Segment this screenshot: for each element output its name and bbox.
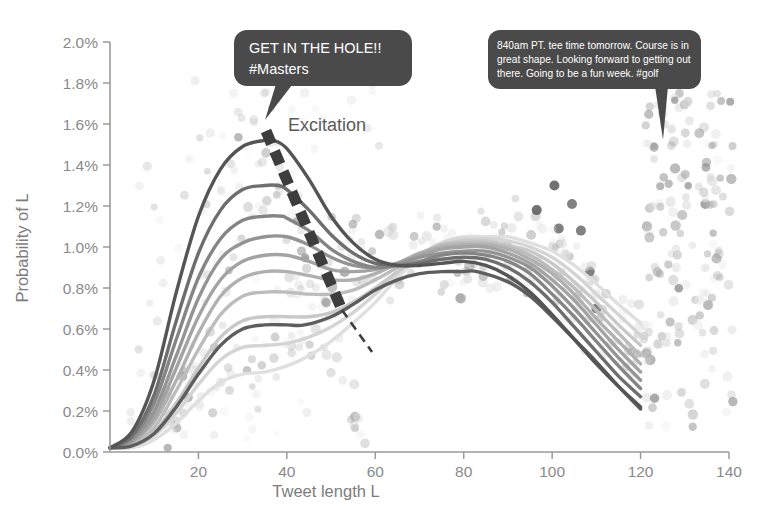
scatter-point: [409, 240, 418, 249]
scatter-point: [294, 281, 303, 290]
scatter-point: [650, 155, 658, 163]
scatter-point: [368, 247, 376, 255]
scatter-point: [306, 279, 315, 288]
scatter-point: [185, 155, 193, 163]
scatter-point: [253, 275, 261, 283]
scatter-point: [549, 225, 557, 233]
scatter-point: [174, 244, 184, 254]
scatter-point: [289, 351, 298, 360]
scatter-point: [210, 431, 218, 439]
scatter-point: [677, 330, 685, 338]
scatter-point: [230, 253, 238, 261]
x-tick-label: 100: [539, 463, 565, 480]
scatter-point: [711, 129, 721, 139]
scatter-point: [710, 230, 717, 237]
scatter-point: [716, 273, 724, 281]
scatter-point: [718, 260, 727, 269]
scatter-point: [728, 397, 737, 406]
scatter-point: [360, 439, 370, 449]
scatter-point: [688, 409, 698, 419]
scatter-point: [410, 232, 419, 241]
scatter-point: [713, 155, 723, 165]
scatter-point: [667, 125, 676, 134]
scatter-point: [644, 351, 653, 360]
scatter-point: [642, 121, 650, 129]
x-tick-label: 140: [716, 463, 742, 480]
scatter-point: [204, 168, 211, 175]
y-tick-label: 2.0%: [63, 34, 99, 51]
scatter-point: [383, 227, 393, 237]
scatter-point: [709, 240, 717, 248]
y-tick-label: 1.4%: [63, 157, 99, 174]
tweet-bubble-masters-line1: GET IN THE HOLE!!: [249, 40, 381, 56]
y-tick-label: 1.2%: [63, 198, 99, 215]
scatter-point: [512, 195, 520, 203]
scatter-point: [723, 372, 733, 382]
scatter-point: [321, 297, 330, 306]
scatter-point: [709, 347, 717, 355]
scatter-point: [669, 137, 679, 147]
scatter-point: [514, 212, 524, 222]
scatter-point: [312, 105, 320, 113]
scatter-point: [677, 173, 687, 183]
scatter-point: [297, 398, 305, 406]
scatter-point: [310, 145, 318, 153]
scatter-point: [338, 376, 347, 385]
scatter-point: [146, 300, 153, 307]
scatter-point: [136, 369, 145, 378]
scatter-point: [685, 182, 692, 189]
x-tick-label: 80: [455, 463, 473, 480]
scatter-point: [249, 383, 256, 390]
scatter-point: [347, 95, 357, 105]
scatter-point: [440, 280, 449, 289]
scatter-point: [668, 275, 678, 285]
scatter-point: [643, 139, 651, 147]
scatter-point: [433, 214, 441, 222]
scatter-point: [670, 220, 680, 230]
scatter-point: [700, 350, 709, 359]
scatter-point: [567, 199, 577, 209]
scatter-point: [675, 284, 684, 293]
scatter-point: [707, 176, 717, 186]
scatter-point: [717, 174, 724, 181]
scatter-point: [704, 250, 711, 257]
scatter-point: [180, 191, 189, 200]
scatter-point: [224, 363, 233, 372]
scatter-point: [273, 373, 281, 381]
scatter-point: [644, 233, 654, 243]
scatter-point: [296, 329, 304, 337]
scatter-point: [665, 197, 675, 207]
scatter-point: [288, 332, 295, 339]
scatter-point: [726, 174, 736, 184]
scatter-point: [672, 245, 680, 253]
scatter-point: [706, 101, 715, 110]
scatter-point: [700, 379, 710, 389]
scatter-point: [437, 288, 445, 296]
scatter-point: [587, 261, 596, 270]
scatter-point: [650, 142, 657, 149]
scatter-point: [477, 208, 484, 215]
scatter-point: [219, 132, 226, 139]
scatter-point: [576, 226, 586, 236]
scatter-point: [332, 352, 342, 362]
scatter-point: [349, 379, 359, 389]
x-axis-title: Tweet length L: [272, 482, 379, 500]
scatter-point: [196, 134, 203, 141]
tweet-bubble-golf-line3: there. Going to be a fun week. #golf: [497, 68, 659, 79]
scatter-point: [656, 182, 664, 190]
scatter-point: [229, 89, 238, 98]
scatter-point: [722, 408, 731, 417]
scatter-point: [677, 388, 686, 397]
scatter-point: [717, 97, 725, 105]
scatter-point: [702, 163, 711, 172]
y-axis-title: Probability of L: [13, 193, 31, 302]
scatter-point: [711, 185, 721, 195]
scatter-point: [644, 110, 653, 119]
scatter-point: [262, 88, 270, 96]
scatter-point: [297, 246, 306, 255]
scatter-point: [156, 256, 165, 265]
scatter-point: [685, 116, 694, 125]
scatter-point: [681, 128, 690, 137]
scatter-point: [261, 148, 271, 158]
scatter-point: [255, 375, 263, 383]
